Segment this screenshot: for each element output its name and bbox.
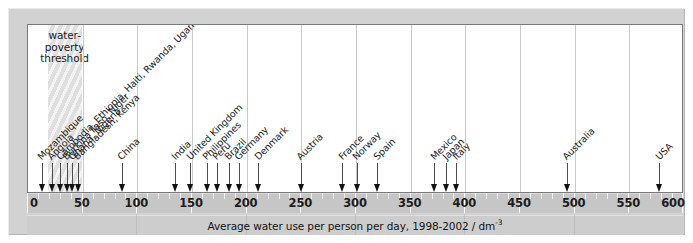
marker-stem xyxy=(190,163,191,185)
x-tick-label-300: 300 xyxy=(343,196,366,210)
gridline-400 xyxy=(465,25,466,192)
arrow-down-icon xyxy=(298,184,304,192)
x-tick-label-400: 400 xyxy=(453,196,476,210)
arrow-down-icon xyxy=(39,184,45,192)
marker-stem xyxy=(659,163,660,185)
gridline-200 xyxy=(247,25,248,192)
minor-tick-130 xyxy=(169,193,170,199)
minor-tick-430 xyxy=(497,193,498,199)
x-tick-label-500: 500 xyxy=(562,196,585,210)
arrow-down-icon xyxy=(656,184,662,192)
minor-tick-40 xyxy=(71,193,72,199)
minor-tick-520 xyxy=(596,193,597,199)
marker-stem xyxy=(72,163,73,185)
marker-stem xyxy=(60,163,61,185)
minor-tick-60 xyxy=(93,193,94,199)
x-axis-label: Average water use per person per day, 19… xyxy=(208,218,503,232)
marker-stem xyxy=(357,163,358,185)
arrow-down-icon xyxy=(374,184,380,192)
water-use-chart-figure: water- poverty threshold MozambiqueAngol… xyxy=(0,0,693,243)
minor-tick-230 xyxy=(279,193,280,199)
arrow-down-icon xyxy=(214,184,220,192)
arrow-down-icon xyxy=(49,184,55,192)
marker-stem xyxy=(342,163,343,185)
arrow-down-icon xyxy=(255,184,261,192)
marker-stem xyxy=(239,163,240,185)
gridline-100 xyxy=(137,25,138,192)
marker-stem xyxy=(217,163,218,185)
arrow-down-icon xyxy=(75,184,81,192)
minor-tick-120 xyxy=(158,193,159,199)
marker-stem xyxy=(67,163,68,185)
marker-stem xyxy=(229,163,230,185)
x-tick-label-150: 150 xyxy=(179,196,202,210)
gridline-150 xyxy=(192,25,193,192)
minor-tick-270 xyxy=(322,193,323,199)
arrow-down-icon xyxy=(339,184,345,192)
marker-stem xyxy=(434,163,435,185)
minor-tick-220 xyxy=(268,193,269,199)
x-tick-label-50: 50 xyxy=(74,196,90,210)
country-label: USA xyxy=(653,141,674,162)
major-tick-0 xyxy=(27,193,28,213)
figure-mount: water- poverty threshold MozambiqueAngol… xyxy=(8,8,685,235)
x-tick-label-100: 100 xyxy=(125,196,148,210)
minor-tick-80 xyxy=(115,193,116,199)
arrow-down-icon xyxy=(119,184,125,192)
x-tick-label-250: 250 xyxy=(289,196,312,210)
marker-stem xyxy=(175,163,176,185)
arrow-down-icon xyxy=(236,184,242,192)
country-label: Australia xyxy=(560,125,597,162)
minor-tick-330 xyxy=(388,193,389,199)
marker-stem xyxy=(78,163,79,185)
marker-stem xyxy=(567,163,568,185)
arrow-down-icon xyxy=(453,184,459,192)
minor-tick-470 xyxy=(541,193,542,199)
marker-stem xyxy=(301,163,302,185)
minor-tick-370 xyxy=(432,193,433,199)
minor-tick-170 xyxy=(213,193,214,199)
arrow-down-icon xyxy=(564,184,570,192)
arrow-down-icon xyxy=(354,184,360,192)
x-axis-ruler: 050100150200250300350400450500550600 xyxy=(27,193,683,213)
arrow-down-icon xyxy=(226,184,232,192)
caption-separator-500 xyxy=(574,215,575,235)
gridline-450 xyxy=(520,25,521,192)
x-tick-label-200: 200 xyxy=(234,196,257,210)
x-tick-label-0: 0 xyxy=(30,196,38,210)
marker-stem xyxy=(207,163,208,185)
water-poverty-threshold-label: water- poverty threshold xyxy=(36,30,94,65)
gridline-350 xyxy=(411,25,412,192)
marker-stem xyxy=(456,163,457,185)
minor-tick-180 xyxy=(224,193,225,199)
country-label: Austria xyxy=(295,131,326,162)
minor-tick-480 xyxy=(552,193,553,199)
marker-stem xyxy=(377,163,378,185)
x-tick-label-350: 350 xyxy=(398,196,421,210)
minor-tick-380 xyxy=(443,193,444,199)
marker-stem xyxy=(446,163,447,185)
minor-tick-70 xyxy=(104,193,105,199)
marker-stem xyxy=(122,163,123,185)
minor-tick-280 xyxy=(333,193,334,199)
minor-tick-420 xyxy=(486,193,487,199)
gridline-50 xyxy=(83,25,84,192)
x-tick-label-600: 600 xyxy=(661,196,684,210)
arrow-down-icon xyxy=(443,184,449,192)
marker-stem xyxy=(52,163,53,185)
gridline-500 xyxy=(575,25,576,192)
arrow-down-icon xyxy=(187,184,193,192)
arrow-down-icon xyxy=(172,184,178,192)
marker-stem xyxy=(42,163,43,185)
marker-stem xyxy=(258,163,259,185)
arrow-down-icon xyxy=(57,184,63,192)
gridline-550 xyxy=(629,25,630,192)
arrow-down-icon xyxy=(431,184,437,192)
x-tick-label-450: 450 xyxy=(507,196,530,210)
arrow-down-icon xyxy=(204,184,210,192)
caption-separator-100 xyxy=(136,215,137,235)
x-tick-label-550: 550 xyxy=(617,196,640,210)
minor-tick-30 xyxy=(60,193,61,199)
minor-tick-570 xyxy=(650,193,651,199)
plot-area: water- poverty threshold MozambiqueAngol… xyxy=(27,24,683,193)
